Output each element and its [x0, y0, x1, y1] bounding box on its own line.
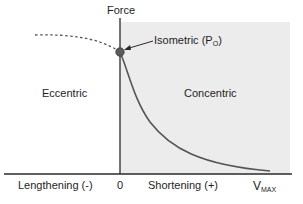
x-tick-zero: 0 [117, 180, 123, 191]
isometric-point [116, 48, 124, 56]
x-tick-lengthening: Lengthening (-) [18, 180, 93, 191]
x-tick-vmax: VMAX [253, 180, 276, 193]
concentric-region-label: Concentric [184, 88, 237, 99]
eccentric-region-label: Eccentric [42, 88, 87, 99]
vmax-sub: MAX [261, 186, 276, 193]
vmax-label: V [253, 179, 261, 193]
force-velocity-chart [0, 0, 303, 204]
isometric-label-text: Isometric (P [154, 34, 213, 46]
x-tick-shortening: Shortening (+) [148, 180, 218, 191]
isometric-label: Isometric (PO) [154, 35, 222, 47]
eccentric-dashed-curve [35, 35, 120, 52]
y-axis-label: Force [107, 5, 135, 16]
isometric-label-close: ) [218, 34, 222, 46]
